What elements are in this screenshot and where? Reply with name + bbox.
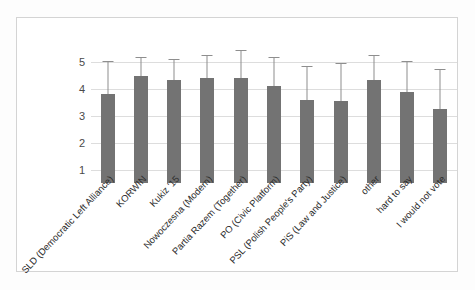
plot-area: 12345 <box>91 62 457 170</box>
bar <box>200 78 214 183</box>
error-bar-line <box>373 55 374 79</box>
bar-group <box>357 62 390 170</box>
y-axis-tick-label: 1 <box>79 165 85 176</box>
error-bar-line <box>140 57 141 76</box>
error-bar-cap <box>335 63 346 64</box>
bar <box>167 80 181 183</box>
bar-series <box>91 62 457 170</box>
error-bar-cap <box>368 55 379 56</box>
bar-group <box>424 62 457 170</box>
error-bar-cap <box>402 61 413 62</box>
chart-frame: 12345 SLD (Democratic Left Alliance)KORW… <box>16 17 458 272</box>
error-bar-line <box>273 57 274 87</box>
x-axis-category-labels: SLD (Democratic Left Alliance)KORWINKuki… <box>91 170 457 288</box>
bar-group <box>257 62 290 170</box>
error-bar-cap <box>235 50 246 51</box>
bar-group <box>324 62 357 170</box>
bar <box>134 76 148 184</box>
bar-group <box>158 62 191 170</box>
error-bar-line <box>240 50 241 78</box>
error-bar-line <box>407 61 408 92</box>
chart-root: 12345 SLD (Democratic Left Alliance)KORW… <box>0 0 475 290</box>
error-bar-line <box>340 63 341 101</box>
error-bar-line <box>107 61 108 95</box>
bar-group <box>124 62 157 170</box>
error-bar-line <box>207 55 208 78</box>
error-bar-cap <box>302 66 313 67</box>
error-bar-cap <box>268 57 279 58</box>
bar-group <box>91 62 124 170</box>
bar-group <box>224 62 257 170</box>
error-bar-cap <box>135 57 146 58</box>
y-axis-tick-label: 3 <box>79 111 85 122</box>
y-axis-tick-label: 2 <box>79 138 85 149</box>
y-axis-tick-label: 5 <box>79 57 85 68</box>
bar <box>367 80 381 183</box>
error-bar-line <box>307 66 308 100</box>
error-bar-line <box>440 69 441 110</box>
bar-group <box>291 62 324 170</box>
bar-group <box>191 62 224 170</box>
y-axis-tick-label: 4 <box>79 84 85 95</box>
bar-group <box>390 62 423 170</box>
error-bar-cap <box>102 61 113 62</box>
bar <box>267 86 281 183</box>
error-bar-line <box>174 59 175 79</box>
error-bar-cap <box>169 59 180 60</box>
error-bar-cap <box>435 69 446 70</box>
bar <box>234 78 248 183</box>
error-bar-cap <box>202 55 213 56</box>
